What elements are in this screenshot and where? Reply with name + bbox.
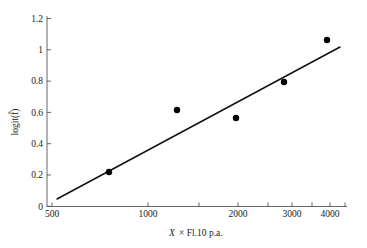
data-point bbox=[233, 115, 239, 121]
chart-figure: 1.2 1 0.8 0.6 0.4 0.2 0 500 1000 2000 30… bbox=[0, 0, 367, 248]
x-tick-label: 3000 bbox=[283, 209, 302, 219]
y-tick-label: 0 bbox=[38, 202, 43, 212]
data-point bbox=[174, 107, 180, 113]
y-axis-title: logit(f̂) bbox=[8, 109, 21, 136]
data-point bbox=[324, 37, 330, 43]
scatter-plot-svg: 1.2 1 0.8 0.6 0.4 0.2 0 500 1000 2000 30… bbox=[0, 0, 367, 248]
y-tick-label: 0.6 bbox=[31, 108, 43, 118]
x-tick-label: 2000 bbox=[229, 209, 248, 219]
x-axis-title-variable: X bbox=[168, 228, 176, 238]
regression-line bbox=[57, 47, 340, 199]
data-point bbox=[106, 169, 112, 175]
y-tick-label: 1.2 bbox=[31, 14, 43, 24]
y-tick-label: 0.2 bbox=[31, 170, 43, 180]
y-tick-label: 0.8 bbox=[31, 76, 43, 86]
x-tick-label: 1000 bbox=[139, 209, 158, 219]
x-axis-tick-labels: 500 1000 2000 3000 4000 bbox=[45, 209, 340, 219]
y-tick-label: 1 bbox=[38, 45, 43, 55]
y-axis-ticks bbox=[47, 19, 51, 207]
x-axis-ticks bbox=[52, 203, 345, 207]
y-tick-label: 0.4 bbox=[31, 139, 43, 149]
y-axis-tick-labels: 1.2 1 0.8 0.6 0.4 0.2 0 bbox=[31, 14, 43, 212]
x-axis-title: X × Fl.10 p.a. bbox=[168, 228, 223, 238]
x-tick-label: 500 bbox=[45, 209, 60, 219]
x-tick-label: 4000 bbox=[321, 209, 340, 219]
x-axis-title-units: × Fl.10 p.a. bbox=[179, 228, 223, 238]
data-point bbox=[281, 79, 287, 85]
